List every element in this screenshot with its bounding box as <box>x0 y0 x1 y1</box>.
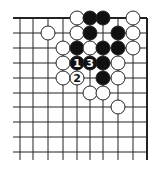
white-stone <box>70 11 84 25</box>
black-stone <box>83 26 97 40</box>
black-stone <box>96 41 110 55</box>
white-stone <box>41 26 55 40</box>
white-stone <box>126 26 140 40</box>
black-stone <box>111 26 125 40</box>
move-number-label: 2 <box>73 72 81 85</box>
black-stone <box>96 56 110 70</box>
white-stone <box>70 26 84 40</box>
white-stone <box>56 56 70 70</box>
white-stone <box>111 71 125 85</box>
white-stone <box>83 41 97 55</box>
black-stone <box>96 71 110 85</box>
white-stone <box>126 11 140 25</box>
black-stone <box>96 11 110 25</box>
black-stone: 1 <box>70 56 84 70</box>
go-board-diagram: 132 <box>0 0 157 174</box>
black-stone: 3 <box>83 56 97 70</box>
white-stone <box>56 71 70 85</box>
white-stone <box>111 56 125 70</box>
white-stone: 2 <box>70 71 84 85</box>
black-stone <box>111 41 125 55</box>
white-stone <box>83 86 97 100</box>
white-stone <box>96 86 110 100</box>
stones-layer: 132 <box>41 11 140 114</box>
black-stone <box>83 11 97 25</box>
white-stone <box>56 41 70 55</box>
move-number-label: 1 <box>73 57 81 70</box>
black-stone <box>70 41 84 55</box>
white-stone <box>126 41 140 55</box>
white-stone <box>111 100 125 114</box>
move-number-label: 3 <box>86 57 94 70</box>
